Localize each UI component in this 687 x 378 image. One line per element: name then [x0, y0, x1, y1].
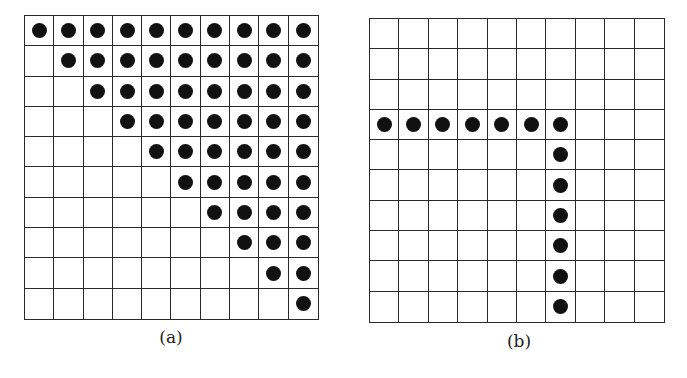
grid-cell — [54, 16, 83, 46]
grid-cell — [54, 289, 83, 319]
grid-cell — [458, 170, 487, 200]
grid-cell — [488, 80, 517, 110]
filled-dot-icon — [296, 235, 311, 250]
grid-cell — [576, 201, 605, 231]
grid-cell — [171, 289, 200, 319]
grid-cell — [289, 289, 318, 319]
grid-cell — [84, 198, 113, 228]
grid-cell — [635, 170, 664, 200]
grid-cell — [605, 201, 634, 231]
grid-cell — [84, 289, 113, 319]
filled-dot-icon — [120, 53, 135, 68]
grid-cell — [399, 231, 428, 261]
grid-cell — [517, 49, 546, 79]
filled-dot-icon — [207, 205, 222, 220]
grid-cell — [142, 77, 171, 107]
grid-cell — [259, 107, 288, 137]
filled-dot-icon — [207, 53, 222, 68]
filled-dot-icon — [553, 208, 568, 223]
grid-cell — [171, 46, 200, 76]
filled-dot-icon — [266, 53, 281, 68]
grid-cell — [576, 170, 605, 200]
grid-cell — [635, 110, 664, 140]
grid-cell — [576, 231, 605, 261]
grid-cell — [113, 289, 142, 319]
grid-cell — [171, 167, 200, 197]
filled-dot-icon — [266, 205, 281, 220]
grid-cell — [113, 258, 142, 288]
grid-cell — [54, 107, 83, 137]
grid-cell — [201, 137, 230, 167]
grid-cell — [635, 201, 664, 231]
grid-cell — [517, 80, 546, 110]
grid-cell — [517, 201, 546, 231]
grid-cell — [429, 80, 458, 110]
filled-dot-icon — [553, 238, 568, 253]
grid-cell — [399, 110, 428, 140]
grid-cell — [429, 231, 458, 261]
filled-dot-icon — [237, 23, 252, 38]
filled-dot-icon — [149, 114, 164, 129]
grid-cell — [259, 198, 288, 228]
grid-cell — [84, 77, 113, 107]
grid-cell — [399, 140, 428, 170]
filled-dot-icon — [32, 23, 47, 38]
grid-cell — [399, 201, 428, 231]
grid-cell — [488, 201, 517, 231]
filled-dot-icon — [207, 23, 222, 38]
filled-dot-icon — [237, 144, 252, 159]
grid-cell — [201, 46, 230, 76]
grid-cell — [635, 261, 664, 291]
grid-cell — [370, 140, 399, 170]
grid-cell — [142, 107, 171, 137]
grid-cell — [230, 16, 259, 46]
filled-dot-icon — [465, 117, 480, 132]
grid-cell — [289, 77, 318, 107]
grid-cell — [289, 46, 318, 76]
grid-cell — [370, 49, 399, 79]
grid-cell — [488, 231, 517, 261]
grid-cell — [230, 46, 259, 76]
filled-dot-icon — [178, 23, 193, 38]
grid-cell — [201, 77, 230, 107]
filled-dot-icon — [207, 114, 222, 129]
grid-cell — [54, 77, 83, 107]
filled-dot-icon — [207, 144, 222, 159]
grid-cell — [605, 231, 634, 261]
grid-cell — [171, 137, 200, 167]
grid-cell — [370, 261, 399, 291]
filled-dot-icon — [90, 23, 105, 38]
grid-cell — [84, 46, 113, 76]
grid-cell — [429, 110, 458, 140]
filled-dot-icon — [207, 175, 222, 190]
filled-dot-icon — [296, 114, 311, 129]
grid-cell — [429, 292, 458, 322]
grid-cell — [546, 261, 575, 291]
filled-dot-icon — [553, 299, 568, 314]
grid-cell — [54, 198, 83, 228]
grid-cell — [517, 140, 546, 170]
grid-cell — [517, 170, 546, 200]
filled-dot-icon — [90, 53, 105, 68]
grid-cell — [458, 19, 487, 49]
grid-cell — [605, 49, 634, 79]
filled-dot-icon — [553, 178, 568, 193]
grid-cell — [201, 258, 230, 288]
grid-cell — [576, 19, 605, 49]
grid-cell — [488, 110, 517, 140]
grid-cell — [370, 110, 399, 140]
grid-cell — [230, 198, 259, 228]
grid-cell — [230, 289, 259, 319]
grid-cell — [546, 49, 575, 79]
grid-cell — [429, 140, 458, 170]
filled-dot-icon — [237, 114, 252, 129]
grid-cell — [230, 137, 259, 167]
filled-dot-icon — [207, 84, 222, 99]
grid-cell — [546, 140, 575, 170]
grid-cell — [259, 137, 288, 167]
grid-cell — [635, 80, 664, 110]
grid-cell — [230, 77, 259, 107]
grid-cell — [605, 80, 634, 110]
grid-cell — [54, 137, 83, 167]
grid-cell — [458, 292, 487, 322]
